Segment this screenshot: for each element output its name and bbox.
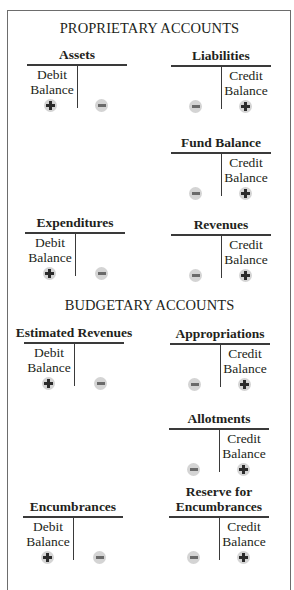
plus-icon: [237, 463, 250, 476]
account-name: Liabilities: [161, 48, 281, 63]
account-name: Revenues: [161, 217, 281, 232]
balance-label: CreditBalance: [221, 68, 271, 98]
balance-label: CreditBalance: [220, 346, 270, 376]
t-vertical-line: [73, 516, 74, 560]
minus-icon: [95, 267, 108, 280]
minus-icon: [94, 377, 107, 390]
balance-label: DebitBalance: [27, 67, 77, 97]
plus-icon: [239, 187, 252, 200]
balance-label: CreditBalance: [219, 431, 269, 461]
plus-icon: [239, 269, 252, 282]
minus-icon: [189, 187, 202, 200]
minus-icon: [187, 463, 200, 476]
plus-icon: [238, 378, 251, 391]
plus-icon: [41, 551, 54, 564]
minus-icon: [93, 551, 106, 564]
plus-icon: [43, 267, 56, 280]
balance-label: DebitBalance: [24, 345, 74, 375]
minus-icon: [188, 378, 201, 391]
plus-icon: [239, 100, 252, 113]
plus-icon: [42, 377, 55, 390]
minus-icon: [189, 269, 202, 282]
balance-label: DebitBalance: [23, 519, 73, 549]
plus-icon: [237, 551, 250, 564]
budgetary-accounts-title: BUDGETARY ACCOUNTS: [7, 297, 292, 314]
proprietary-accounts-title: PROPRIETARY ACCOUNTS: [7, 20, 292, 37]
balance-label: CreditBalance: [219, 519, 269, 549]
balance-label: CreditBalance: [221, 155, 271, 185]
account-name: Encumbrances: [13, 499, 133, 514]
plus-icon: [44, 99, 57, 112]
minus-icon: [187, 551, 200, 564]
t-vertical-line: [74, 342, 75, 386]
balance-label: DebitBalance: [25, 235, 75, 265]
t-vertical-line: [75, 232, 76, 276]
account-name: Appropriations: [160, 326, 280, 341]
t-vertical-line: [77, 64, 78, 108]
account-name: Allotments: [159, 411, 279, 426]
account-name: Expenditures: [15, 215, 135, 230]
account-name: Estimated Revenues: [14, 325, 134, 340]
account-name: Fund Balance: [161, 135, 281, 150]
minus-icon: [95, 99, 108, 112]
account-name: Reserve forEncumbrances: [159, 484, 279, 514]
balance-label: CreditBalance: [221, 237, 271, 267]
minus-icon: [189, 100, 202, 113]
account-name: Assets: [17, 47, 137, 62]
